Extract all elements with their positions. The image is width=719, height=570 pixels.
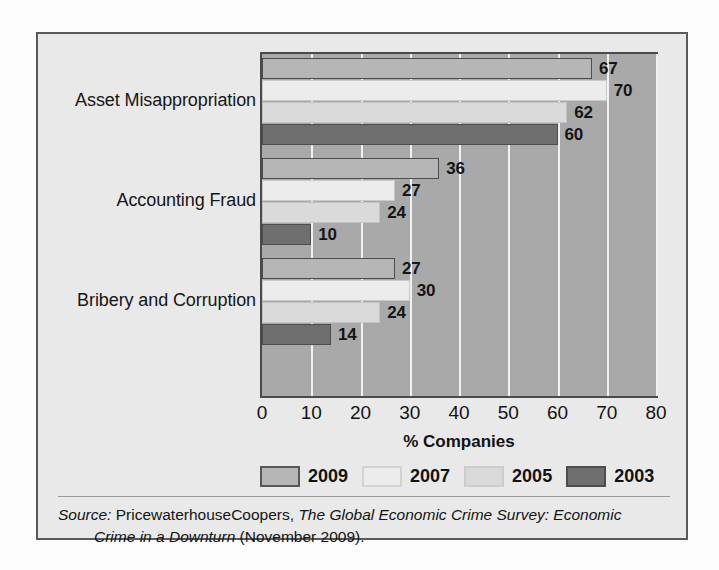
bar-2009-bribery-and-corruption[interactable]	[262, 258, 395, 279]
bar-row: 67	[262, 58, 656, 79]
bar-row: 70	[262, 80, 656, 101]
bar-2005-accounting-fraud[interactable]	[262, 202, 380, 223]
bar-2007-accounting-fraud[interactable]	[262, 180, 395, 201]
source-prefix: Source:	[58, 506, 111, 523]
legend-item-2007[interactable]: 2007	[362, 466, 450, 487]
x-tick-50: 50	[498, 402, 519, 424]
bar-2005-asset-misappropriation[interactable]	[262, 102, 567, 123]
legend-swatch-2003	[566, 466, 606, 487]
bar-value-label: 67	[599, 59, 618, 79]
bar-2007-bribery-and-corruption[interactable]	[262, 280, 410, 301]
source-note: Source: PricewaterhouseCoopers, The Glob…	[58, 496, 670, 549]
legend-item-2003[interactable]: 2003	[566, 466, 654, 487]
bar-group: 27302414	[262, 258, 656, 346]
legend-label-2003: 2003	[614, 466, 654, 487]
bar-2003-accounting-fraud[interactable]	[262, 224, 311, 245]
legend-swatch-2009	[260, 466, 300, 487]
source-title-line2: Crime in a Downturn	[94, 528, 235, 545]
x-axis-title: % Companies	[260, 432, 658, 452]
bar-2009-asset-misappropriation[interactable]	[262, 58, 592, 79]
bar-2009-accounting-fraud[interactable]	[262, 158, 439, 179]
bar-value-label: 30	[417, 281, 436, 301]
x-tick-40: 40	[448, 402, 469, 424]
x-axis-ticks: 01020304050607080	[260, 402, 658, 428]
bar-row: 24	[262, 302, 656, 323]
bar-value-label: 27	[402, 259, 421, 279]
category-label-accounting-fraud: Accounting Fraud	[117, 190, 256, 211]
bar-value-label: 10	[318, 225, 337, 245]
x-tick-30: 30	[399, 402, 420, 424]
bar-2003-bribery-and-corruption[interactable]	[262, 324, 331, 345]
legend-item-2005[interactable]: 2005	[464, 466, 552, 487]
x-tick-0: 0	[257, 402, 268, 424]
bar-value-label: 60	[565, 125, 584, 145]
legend-label-2005: 2005	[512, 466, 552, 487]
legend-label-2007: 2007	[410, 466, 450, 487]
bar-2003-asset-misappropriation[interactable]	[262, 124, 558, 145]
x-tick-10: 10	[301, 402, 322, 424]
bar-row: 14	[262, 324, 656, 345]
bar-2007-asset-misappropriation[interactable]	[262, 80, 607, 101]
bar-row: 60	[262, 124, 656, 145]
bar-row: 24	[262, 202, 656, 223]
bar-value-label: 27	[402, 181, 421, 201]
bar-row: 27	[262, 180, 656, 201]
category-label-bribery-and-corruption: Bribery and Corruption	[77, 290, 256, 311]
bar-row: 30	[262, 280, 656, 301]
source-publisher: PricewaterhouseCoopers,	[111, 506, 298, 523]
bar-group: 67706260	[262, 58, 656, 146]
bars-layer: 677062603627241027302414	[262, 54, 656, 396]
legend-swatch-2005	[464, 466, 504, 487]
legend-swatch-2007	[362, 466, 402, 487]
bar-row: 10	[262, 224, 656, 245]
x-tick-70: 70	[596, 402, 617, 424]
plot-area: 677062603627241027302414	[260, 52, 658, 398]
bar-group: 36272410	[262, 158, 656, 246]
bar-value-label: 24	[387, 303, 406, 323]
bar-value-label: 14	[338, 325, 357, 345]
figure-panel: 677062603627241027302414 Asset Misapprop…	[36, 32, 688, 540]
x-tick-20: 20	[350, 402, 371, 424]
gridline-80	[656, 54, 658, 396]
category-axis-labels: Asset MisappropriationAccounting FraudBr…	[78, 52, 256, 398]
legend: 2009200720052003	[260, 462, 680, 490]
x-tick-80: 80	[645, 402, 666, 424]
source-date: (November 2009).	[235, 528, 364, 545]
bar-value-label: 24	[387, 203, 406, 223]
legend-label-2009: 2009	[308, 466, 348, 487]
bar-row: 36	[262, 158, 656, 179]
bar-value-label: 36	[446, 159, 465, 179]
x-tick-60: 60	[547, 402, 568, 424]
legend-item-2009[interactable]: 2009	[260, 466, 348, 487]
bar-value-label: 62	[574, 103, 593, 123]
bar-row: 27	[262, 258, 656, 279]
bar-row: 62	[262, 102, 656, 123]
source-title: The Global Economic Crime Survey: Econom…	[298, 506, 621, 523]
bar-value-label: 70	[614, 81, 633, 101]
category-label-asset-misappropriation: Asset Misappropriation	[75, 90, 256, 111]
bar-2005-bribery-and-corruption[interactable]	[262, 302, 380, 323]
